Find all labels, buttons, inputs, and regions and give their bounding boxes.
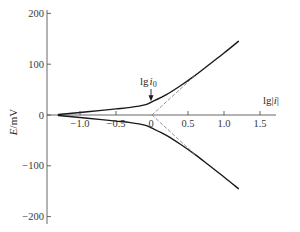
x-tick-label: −1.0 xyxy=(70,118,89,129)
x-axis-title: lg|i| xyxy=(263,94,279,106)
annotation-lg-i0: lgi0 xyxy=(140,75,157,101)
x-tick-label: 0.5 xyxy=(181,118,194,129)
x-tick-label: −0.5 xyxy=(106,118,125,129)
annotation-label: lgi0 xyxy=(140,75,157,89)
y-tick-label: −200 xyxy=(22,211,44,222)
x-tick-label: 1.0 xyxy=(217,118,230,129)
y-tick-label: 0 xyxy=(39,110,44,121)
y-axis-title: E/mV xyxy=(7,109,19,136)
y-tick-label: −100 xyxy=(22,160,44,171)
anodic-tafel-extrapolation-dashed-line xyxy=(152,75,195,115)
arrowhead-icon xyxy=(149,95,154,101)
x-tick-label: 1.5 xyxy=(253,118,266,129)
annotations: lgi0 xyxy=(140,75,157,101)
y-tick-label: 100 xyxy=(28,59,44,70)
polarization-chart: 2001000−100−200−1.0−0.500.51.01.5 lgi0 l… xyxy=(0,0,300,232)
y-tick-label: 200 xyxy=(28,8,44,19)
